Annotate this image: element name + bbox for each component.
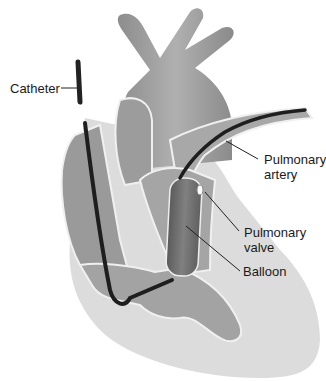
pulmonary-valve-label: Pulmonary valve <box>244 225 306 255</box>
balloon-label: Balloon <box>243 264 286 279</box>
pulmonary-valve <box>197 185 203 195</box>
pulmonary-artery-label: Pulmonary artery <box>264 152 326 182</box>
pulmonary-balloon-valvuloplasty-diagram: Catheter Pulmonary artery Pulmonary valv… <box>0 0 326 381</box>
heart-illustration <box>0 0 326 381</box>
catheter-external <box>78 62 80 102</box>
catheter-label: Catheter <box>10 81 60 96</box>
aortic-root <box>115 98 152 185</box>
